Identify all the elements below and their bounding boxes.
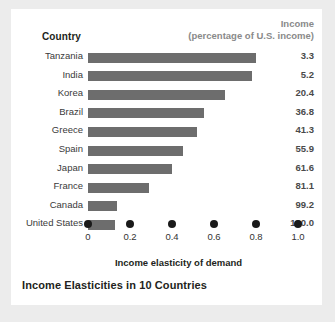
row-label-country: Greece [11,124,83,135]
bar-elasticity [88,108,204,118]
table-row: Brazil36.8 [11,105,322,124]
row-value-income: 61.6 [233,162,314,173]
chart-plot-area: Country Income (percentage of U.S. incom… [11,9,322,305]
bar-elasticity [88,71,252,81]
tick-dot-icon [252,220,260,228]
row-label-country: Canada [11,199,83,210]
row-label-country: India [11,69,83,80]
row-value-income: 99.2 [233,199,314,210]
table-row: Japan61.6 [11,161,322,180]
tick-dot-icon [294,220,302,228]
row-value-income: 55.9 [233,143,314,154]
tick-dot-icon [126,220,134,228]
column-header-income-line1: Income [188,18,314,30]
tick-dot-icon [168,220,176,228]
x-axis: 00.20.40.60.81.0 [88,220,298,254]
bar-elasticity [88,90,225,100]
tick-dot-icon [84,220,92,228]
chart-card: Country Income (percentage of U.S. incom… [11,9,322,305]
bar-elasticity [88,127,197,137]
column-header-income-line2: (percentage of U.S. income) [188,30,314,42]
x-axis-tick-label: 0 [70,231,106,242]
table-row: India5.2 [11,68,322,87]
x-axis-tick-label: 0.6 [196,231,232,242]
x-axis-tick-label: 1.0 [280,231,316,242]
table-row: Canada99.2 [11,198,322,217]
row-label-country: France [11,180,83,191]
column-header-income: Income (percentage of U.S. income) [188,18,314,42]
row-value-income: 3.3 [233,50,314,61]
bar-elasticity [88,146,183,156]
table-row: Korea20.4 [11,86,322,105]
bar-elasticity [88,183,149,193]
row-value-income: 20.4 [233,87,314,98]
x-axis-tick-label: 0.4 [154,231,190,242]
table-row: Greece41.3 [11,123,322,142]
bar-elasticity [88,53,256,63]
x-axis-tick-label: 0.2 [112,231,148,242]
row-label-country: Korea [11,87,83,98]
row-value-income: 41.3 [233,124,314,135]
bar-elasticity [88,164,172,174]
table-row: Tanzania3.3 [11,49,322,68]
row-value-income: 81.1 [233,180,314,191]
row-label-country: Tanzania [11,50,83,61]
row-label-country: Japan [11,162,83,173]
chart-title: Income Elasticities in 10 Countries [22,279,207,291]
row-value-income: 36.8 [233,106,314,117]
row-label-country: Brazil [11,106,83,117]
row-label-country: Spain [11,143,83,154]
column-header-country: Country [42,31,81,42]
bar-elasticity [88,201,117,211]
row-label-country: United States [11,217,83,228]
table-row: Spain55.9 [11,142,322,161]
table-row: France81.1 [11,179,322,198]
x-axis-tick-label: 0.8 [238,231,274,242]
tick-dot-icon [210,220,218,228]
x-axis-title: Income elasticity of demand [11,257,322,268]
row-value-income: 5.2 [233,69,314,80]
